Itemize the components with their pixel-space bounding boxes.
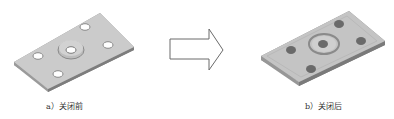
caption-after: b）关闭后 [305, 100, 342, 111]
arrow-right-outline-icon [168, 27, 226, 72]
caption-before: a）关闭前 [46, 100, 83, 111]
plate-before-image [10, 10, 140, 92]
plate-after-image [257, 8, 389, 88]
